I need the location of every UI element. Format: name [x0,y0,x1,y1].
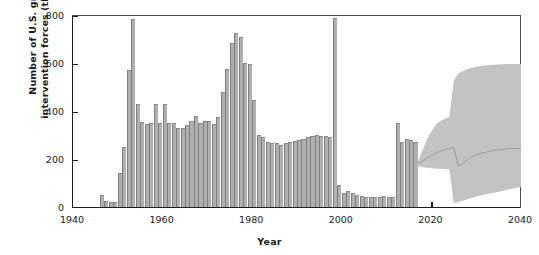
bar-2004 [360,196,364,207]
bar-2001 [346,191,350,207]
bar-2006 [369,197,373,207]
y-tick-label-0: 0 [30,203,64,213]
bar-1999 [337,185,341,207]
bar-1949 [113,202,117,207]
bar-2015 [409,140,413,207]
bar-2010 [387,197,391,207]
bar-1947 [104,201,108,207]
bar-1975 [230,43,234,207]
bar-1946 [100,195,104,207]
bar-1998 [333,18,337,207]
bar-1987 [284,143,288,207]
bar-1950 [118,173,122,207]
bar-1969 [203,121,207,207]
bar-1997 [328,137,332,207]
bar-1989 [293,141,297,207]
x-tick-label-1960: 1960 [132,214,192,225]
bar-2005 [364,197,368,207]
plot-area [72,16,520,208]
bar-1964 [181,128,185,207]
bar-1992 [306,137,310,207]
bar-1974 [225,69,229,207]
x-tick-label-1940: 1940 [42,214,102,225]
bar-1963 [176,128,180,207]
bar-1952 [127,70,131,207]
bar-1981 [257,135,261,207]
bar-2011 [391,197,395,207]
bar-2003 [355,195,359,207]
bar-1982 [261,137,265,207]
bar-1971 [212,124,216,207]
bar-1968 [198,123,202,207]
bar-1961 [167,123,171,207]
bar-1979 [248,64,252,207]
bar-1978 [243,63,247,207]
bar-2008 [378,197,382,207]
bar-1972 [216,117,220,207]
bar-2014 [405,139,409,207]
bar-1956 [145,124,149,207]
bar-1993 [310,136,314,207]
x-tick-label-2040: 2040 [490,214,539,225]
bar-2007 [373,197,377,207]
y-tick-label-800: 800 [30,11,64,21]
y-tick-label-600: 600 [30,59,64,69]
bar-1960 [163,104,167,207]
bar-1962 [172,123,176,207]
bar-1957 [149,123,153,207]
bar-1984 [270,143,274,207]
bar-1965 [185,125,189,207]
bar-1985 [275,143,279,207]
y-tick-label-400: 400 [30,107,64,117]
bar-1986 [279,145,283,207]
bar-1976 [234,33,238,207]
bar-2009 [382,196,386,207]
bar-1970 [207,121,211,207]
bar-2013 [400,142,404,207]
bar-1967 [194,116,198,207]
bar-1980 [252,100,256,207]
bar-2012 [396,123,400,207]
bar-1948 [109,202,113,207]
bar-1977 [239,37,243,207]
uncertainty-band-shape [418,64,521,203]
x-axis-title: Year [0,236,539,247]
bar-2002 [351,193,355,207]
bar-1990 [297,140,301,207]
bar-1958 [154,104,158,207]
y-tick-label-200: 200 [30,155,64,165]
bar-2000 [342,193,346,207]
bar-1951 [122,147,126,207]
bar-1966 [189,121,193,207]
bar-1955 [140,122,144,207]
bar-1996 [324,136,328,207]
bar-2016 [413,142,417,207]
bar-1954 [136,104,140,207]
bar-1959 [158,123,162,207]
x-tick-label-2000: 2000 [311,214,371,225]
x-tick-label-2020: 2020 [400,214,460,225]
chart-figure: Number of U.S. ground intervention force… [0,0,539,255]
bar-1994 [315,135,319,207]
bar-1953 [131,19,135,207]
x-tick-label-1980: 1980 [221,214,281,225]
bar-1988 [288,142,292,207]
bar-1973 [221,92,225,207]
bar-1991 [301,139,305,207]
bar-1995 [319,136,323,207]
bar-1983 [266,142,270,207]
